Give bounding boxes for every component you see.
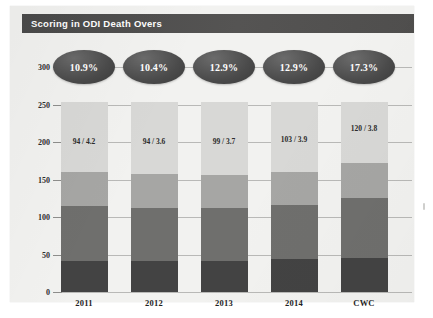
bar-value-label: 103 / 3.9 (259, 135, 329, 144)
bar-value-label: 94 / 3.6 (119, 137, 189, 146)
bar-segment[interactable] (201, 261, 248, 293)
bar-value-label: 99 / 3.7 (189, 137, 259, 146)
bar-segment[interactable] (341, 102, 388, 163)
stacked-bar[interactable] (131, 102, 178, 292)
bar-segment[interactable] (61, 261, 108, 293)
bar-segment[interactable] (201, 175, 248, 208)
bar-value-label: 120 / 3.8 (329, 124, 399, 133)
y-axis-label: 50 (10, 250, 50, 259)
bar-value-label: 94 / 4.2 (49, 137, 119, 146)
stacked-bar[interactable] (271, 102, 318, 292)
bar-segment[interactable] (61, 206, 108, 261)
photographed-chart-page: Scoring in ODI Death Overs 3002502001501… (0, 0, 433, 318)
bar-segment[interactable] (271, 259, 318, 292)
y-axis-label: 0 (10, 288, 50, 297)
bar-segment[interactable] (61, 172, 108, 206)
bar-segment[interactable] (201, 208, 248, 261)
y-axis-label: 250 (10, 100, 50, 109)
bar-segment[interactable] (131, 208, 178, 261)
stacked-bar[interactable] (61, 102, 108, 292)
bar-segment[interactable] (131, 261, 178, 293)
y-axis-label: 300 (10, 63, 50, 72)
bar-segment[interactable] (131, 174, 178, 208)
x-axis-label: 2012 (119, 298, 189, 308)
percentage-bubble-label: 17.3% (350, 62, 379, 73)
percentage-bubble[interactable]: 10.4% (123, 50, 185, 84)
bar-segment[interactable] (271, 205, 318, 259)
bar-segment[interactable] (341, 258, 388, 293)
chart-panel: Scoring in ODI Death Overs 3002502001501… (10, 6, 414, 302)
percentage-bubble[interactable]: 17.3% (333, 50, 395, 84)
bar-segment[interactable] (341, 198, 388, 257)
percentage-bubble-label: 10.9% (70, 62, 99, 73)
bar-segment[interactable] (271, 172, 318, 205)
x-axis-label: CWC (329, 298, 399, 308)
y-axis-label: 200 (10, 138, 50, 147)
plot-area: 30025020015010050094 / 4.2201110.9%94 / … (10, 6, 414, 302)
x-axis-label: 2014 (259, 298, 329, 308)
x-axis-label: 2011 (49, 298, 119, 308)
percentage-bubble-label: 12.9% (280, 62, 309, 73)
stacked-bar[interactable] (201, 102, 248, 292)
scan-artifact (423, 203, 425, 210)
bar-segment[interactable] (341, 163, 388, 198)
percentage-bubble[interactable]: 12.9% (193, 50, 255, 84)
percentage-bubble[interactable]: 10.9% (53, 50, 115, 84)
y-axis-label: 150 (10, 175, 50, 184)
percentage-bubble-label: 10.4% (140, 62, 169, 73)
percentage-bubble-label: 12.9% (210, 62, 239, 73)
x-axis-label: 2013 (189, 298, 259, 308)
percentage-bubble[interactable]: 12.9% (263, 50, 325, 84)
y-axis-label: 100 (10, 213, 50, 222)
y-axis-tick (53, 292, 62, 293)
gridline (58, 292, 412, 293)
